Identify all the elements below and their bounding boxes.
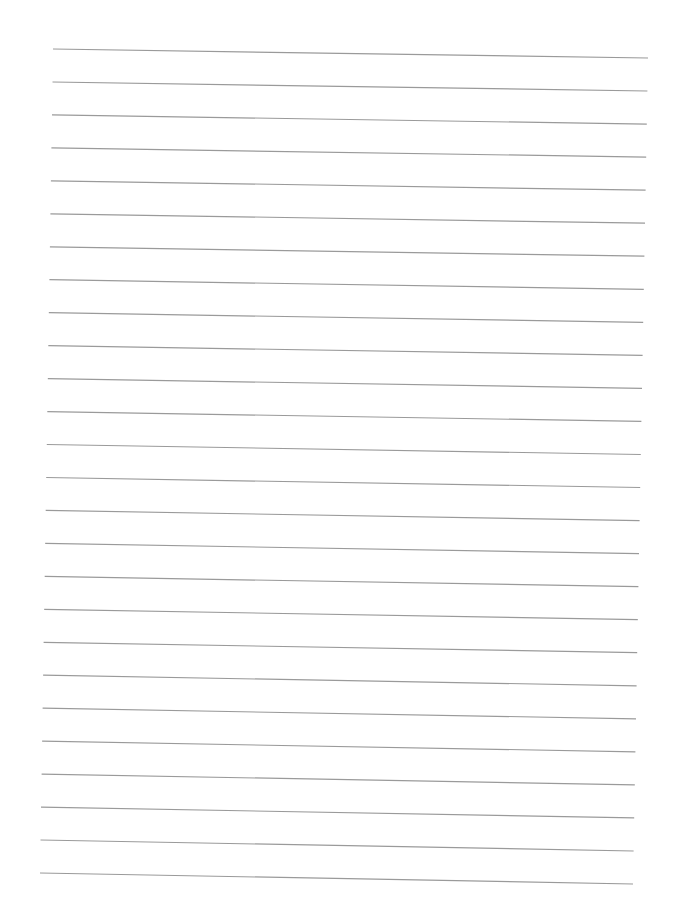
ruled-line (47, 445, 641, 455)
ruled-line (41, 807, 634, 818)
ruled-line (52, 115, 647, 124)
ruled-line (49, 313, 643, 323)
ruled-line (45, 576, 639, 586)
ruled-lines (0, 0, 681, 915)
ruled-line (51, 181, 646, 190)
ruled-line (41, 840, 634, 851)
ruled-line (48, 379, 642, 389)
ruled-line (40, 873, 633, 884)
ruled-line (45, 543, 639, 553)
ruled-line (44, 609, 638, 619)
ruled-line (42, 741, 635, 752)
lined-paper-page (0, 0, 681, 915)
ruled-line (53, 82, 648, 91)
ruled-line (46, 478, 640, 488)
ruled-line (46, 510, 640, 520)
ruled-line (53, 49, 648, 58)
ruled-line (49, 280, 643, 290)
ruled-line (48, 346, 642, 356)
ruled-line (43, 708, 636, 719)
ruled-line (43, 675, 637, 686)
ruled-line (44, 642, 638, 652)
ruled-line (50, 247, 645, 256)
ruled-line (47, 412, 641, 422)
ruled-line (42, 774, 635, 785)
ruled-line (50, 214, 645, 223)
ruled-line (51, 148, 646, 157)
